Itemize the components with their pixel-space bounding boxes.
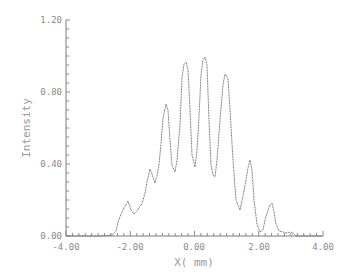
x-tick-label-2: 2.00 xyxy=(248,242,270,252)
x-axis-title: X( mm) xyxy=(174,256,214,269)
x-tick-label-neg4: -4.00 xyxy=(52,242,79,252)
x-tick-label-4: 4.00 xyxy=(312,242,334,252)
intensity-curve xyxy=(66,57,323,236)
y-tick-label-0.40: 0.40 xyxy=(40,159,62,169)
y-tick-label-0.00: 0.00 xyxy=(40,231,62,241)
y-tick-label-0.80: 0.80 xyxy=(40,87,62,97)
intensity-chart: 1.20 0.80 0.40 0.00 -4.00 -2.00 0.00 2.0… xyxy=(0,0,353,276)
x-tick-label-0: 0.00 xyxy=(183,242,205,252)
y-axis-title: Intensity xyxy=(20,98,33,158)
y-tick-label-1.20: 1.20 xyxy=(40,15,62,25)
x-tick-label-neg2: -2.00 xyxy=(116,242,143,252)
y-axis-ticks xyxy=(66,20,70,236)
